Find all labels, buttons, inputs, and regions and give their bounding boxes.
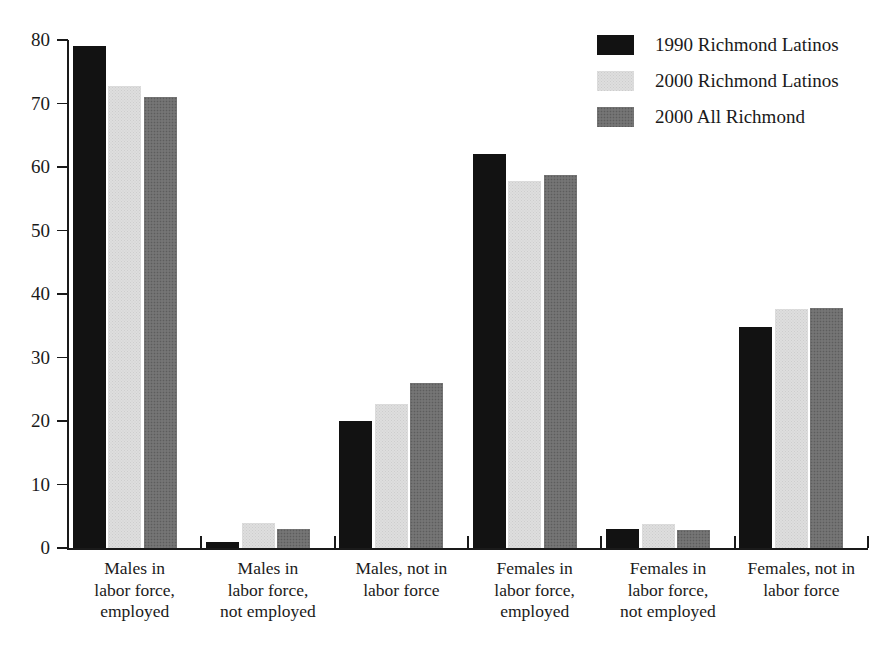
bar xyxy=(642,524,675,548)
category-label-line: labor force xyxy=(335,580,468,602)
y-axis-tick xyxy=(57,230,68,232)
y-axis-tick xyxy=(57,39,68,41)
y-axis-tick-label: 60 xyxy=(4,157,50,176)
y-axis-tick xyxy=(57,420,68,422)
bar xyxy=(544,175,577,548)
category-label-line: not employed xyxy=(601,601,734,623)
bar xyxy=(810,308,843,548)
category-label-line: employed xyxy=(68,601,201,623)
category-label-line: employed xyxy=(468,601,601,623)
y-axis-tick-label: 30 xyxy=(4,348,50,367)
legend-item-2000-all-richmond[interactable]: 2000 All Richmond xyxy=(597,99,839,135)
y-axis-tick xyxy=(57,357,68,359)
category-label-line: labor force xyxy=(735,580,868,602)
legend-label-series-0: 1990 Richmond Latinos xyxy=(655,35,839,55)
bar xyxy=(277,529,310,548)
bar xyxy=(73,46,106,548)
category-label-line: Males, not in xyxy=(335,558,468,580)
y-axis-tick-label: 40 xyxy=(4,284,50,303)
bar xyxy=(410,383,443,548)
bar-chart: 01020304050607080 Males inlabor force,em… xyxy=(0,0,881,649)
category-label-line: not employed xyxy=(201,601,334,623)
legend-label-series-2: 2000 All Richmond xyxy=(655,107,805,127)
category-label-line: Females in xyxy=(601,558,734,580)
chart-legend: 1990 Richmond Latinos 2000 Richmond Lati… xyxy=(597,27,839,135)
x-axis-category-label: Males inlabor force,employed xyxy=(68,558,201,623)
x-axis-category-label: Females inlabor force,employed xyxy=(468,558,601,623)
bar xyxy=(508,181,541,548)
bar xyxy=(206,542,239,548)
y-axis-tick xyxy=(57,484,68,486)
legend-swatch-icon-series-1 xyxy=(597,71,634,91)
x-axis-category-label: Males, not inlabor force xyxy=(335,558,468,601)
legend-swatch-icon-series-2 xyxy=(597,107,634,127)
category-label-line: Males in xyxy=(201,558,334,580)
legend-item-1990-richmond-latinos[interactable]: 1990 Richmond Latinos xyxy=(597,27,839,63)
category-label-line: labor force, xyxy=(601,580,734,602)
category-label-line: Males in xyxy=(68,558,201,580)
y-axis-tick xyxy=(57,103,68,105)
x-axis-category-label: Males inlabor force,not employed xyxy=(201,558,334,623)
y-axis-tick-label: 20 xyxy=(4,411,50,430)
y-axis-tick-label: 80 xyxy=(4,30,50,49)
bar xyxy=(775,309,808,548)
bar xyxy=(108,86,141,548)
y-axis-tick-label: 70 xyxy=(4,94,50,113)
y-axis-tick xyxy=(57,293,68,295)
bar xyxy=(677,530,710,548)
bar xyxy=(375,404,408,548)
category-label-line: labor force, xyxy=(468,580,601,602)
y-axis-tick-label: 10 xyxy=(4,475,50,494)
bar xyxy=(242,523,275,548)
y-axis-tick-label: 0 xyxy=(4,538,50,557)
category-label-line: Females in xyxy=(468,558,601,580)
legend-item-2000-richmond-latinos[interactable]: 2000 Richmond Latinos xyxy=(597,63,839,99)
bar xyxy=(339,421,372,548)
x-axis-category-label: Females inlabor force,not employed xyxy=(601,558,734,623)
bar xyxy=(606,529,639,548)
bar xyxy=(144,97,177,548)
y-axis-tick xyxy=(57,166,68,168)
bar xyxy=(473,154,506,548)
bar xyxy=(739,327,772,548)
category-label-line: labor force, xyxy=(201,580,334,602)
category-label-line: labor force, xyxy=(68,580,201,602)
x-axis-category-label: Females, not inlabor force xyxy=(735,558,868,601)
legend-label-series-1: 2000 Richmond Latinos xyxy=(655,71,839,91)
y-axis-tick-label: 50 xyxy=(4,221,50,240)
legend-swatch-icon-series-0 xyxy=(597,35,634,55)
category-label-line: Females, not in xyxy=(735,558,868,580)
